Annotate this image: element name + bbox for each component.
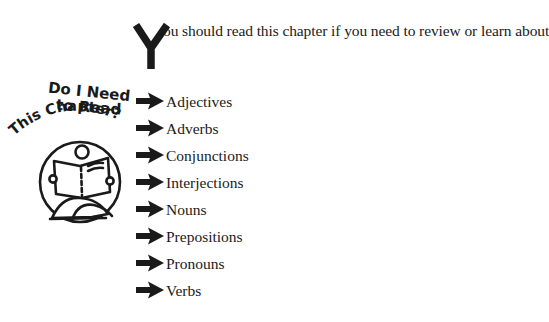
badge-line-3: This Chapter? <box>6 98 123 138</box>
topic-item-interjections: Interjections <box>135 169 249 196</box>
topic-item-nouns: Nouns <box>135 196 249 223</box>
topic-item-prepositions: Prepositions <box>135 222 249 249</box>
intro-text: ou should read this chapter if you need … <box>163 22 549 40</box>
topic-item-pronouns: Pronouns <box>135 249 249 276</box>
right-arrow-icon <box>135 146 165 164</box>
right-arrow-icon <box>135 173 165 191</box>
topic-item-adverbs: Adverbs <box>135 115 249 142</box>
right-arrow-icon <box>135 119 165 137</box>
topic-item-adjectives: Adjectives <box>135 88 249 115</box>
topic-label: Verbs <box>166 282 201 300</box>
topic-item-verbs: Verbs <box>135 276 249 303</box>
topic-label: Prepositions <box>166 228 243 246</box>
topic-list: Adjectives Adverbs Conjunctions Interjec… <box>135 88 249 303</box>
do-i-need-to-read-badge: Do I Need to Read This Chapter? <box>2 74 132 224</box>
person-reading-book-icon <box>40 142 120 222</box>
right-arrow-icon <box>135 200 165 218</box>
topic-item-conjunctions: Conjunctions <box>135 142 249 169</box>
right-arrow-icon <box>135 227 165 245</box>
topic-label: Adverbs <box>166 120 219 138</box>
topic-label: Nouns <box>166 201 206 219</box>
topic-label: Adjectives <box>166 93 232 111</box>
topic-label: Pronouns <box>166 255 225 273</box>
right-arrow-icon <box>135 281 165 299</box>
right-arrow-icon <box>135 254 165 272</box>
topic-label: Interjections <box>166 174 243 192</box>
right-arrow-icon <box>135 92 165 110</box>
topic-label: Conjunctions <box>166 147 249 165</box>
